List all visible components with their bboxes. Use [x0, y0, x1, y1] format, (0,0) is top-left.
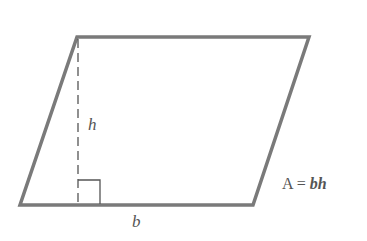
formula-bh: bh — [310, 175, 327, 192]
parallelogram-outline — [20, 37, 309, 205]
right-angle-marker — [78, 180, 100, 204]
area-formula: A = bh — [282, 175, 327, 192]
height-label: h — [88, 115, 97, 134]
formula-equals: = — [293, 175, 310, 192]
parallelogram-area-diagram: h b A = bh — [0, 0, 367, 241]
base-label: b — [132, 212, 141, 231]
